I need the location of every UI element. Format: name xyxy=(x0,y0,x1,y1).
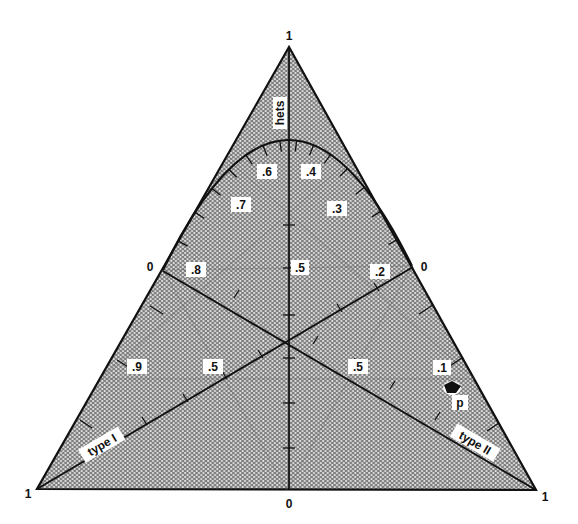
curve-label-03: .3 xyxy=(332,202,342,216)
left-zero-label: 0 xyxy=(147,260,154,274)
curve-label-04: .4 xyxy=(306,165,316,179)
vertex-right-label: 1 xyxy=(542,490,549,504)
diagram-canvas: 1 1 1 0 0 0 hets .6 .4 .7 .3 .8 xyxy=(0,0,578,524)
curve-label-08: .8 xyxy=(191,263,201,277)
center-label-05: .5 xyxy=(295,261,305,275)
curve-label-07: .7 xyxy=(236,198,246,212)
hets-axis-label: hets xyxy=(273,100,287,125)
point-p-label: p xyxy=(456,396,463,410)
bottom-zero-label: 0 xyxy=(286,497,293,511)
curve-label-02: .2 xyxy=(375,265,385,279)
vertex-top-label: 1 xyxy=(286,29,293,43)
right-zero-label: 0 xyxy=(421,260,428,274)
curve-label-06: .6 xyxy=(262,165,272,179)
label-right-05: .5 xyxy=(353,360,363,374)
point-p-marker xyxy=(443,381,461,395)
label-09: .9 xyxy=(132,360,142,374)
label-01: .1 xyxy=(437,361,447,375)
vertex-left-label: 1 xyxy=(25,487,32,501)
label-left-05: .5 xyxy=(208,360,218,374)
ternary-diagram: 1 1 1 0 0 0 hets .6 .4 .7 .3 .8 xyxy=(0,0,578,524)
